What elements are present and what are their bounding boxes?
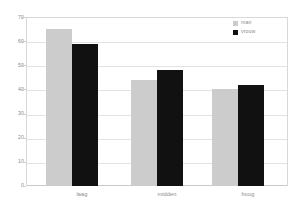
gridline-60 <box>27 42 287 43</box>
legend-swatch-man-icon <box>233 21 238 26</box>
y-tick-label: 70 <box>4 15 24 20</box>
y-tick-label: 60 <box>4 39 24 44</box>
legend-label-man: man <box>241 20 251 25</box>
y-tick-mark <box>22 186 26 187</box>
y-axis: 70 60 50 40 30 20 10 0 <box>0 0 24 215</box>
y-tick-label: 0 <box>4 183 24 188</box>
x-label-laag: laag <box>46 192 118 198</box>
y-tick-label: 50 <box>4 63 24 68</box>
y-tick-label: 20 <box>4 135 24 140</box>
x-label-hoog: hoog <box>212 192 284 198</box>
y-tick-label: 10 <box>4 159 24 164</box>
y-tick-label: 40 <box>4 87 24 92</box>
plot-area <box>26 17 288 186</box>
gridline-20 <box>27 139 287 140</box>
y-tick-label: 30 <box>4 111 24 116</box>
legend-item-man: man <box>233 19 255 27</box>
bar-chart: 70 60 50 40 30 20 10 0 <box>0 0 301 215</box>
legend-label-vrouw: vrouw <box>241 29 255 34</box>
legend-item-vrouw: vrouw <box>233 28 255 36</box>
gridline-50 <box>27 66 287 67</box>
gridline-10 <box>27 163 287 164</box>
legend-swatch-vrouw-icon <box>233 30 238 35</box>
gridline-30 <box>27 115 287 116</box>
gridline-0 <box>27 185 287 186</box>
x-label-midden: midden <box>131 192 203 198</box>
chart-legend: man vrouw <box>233 19 255 37</box>
gridline-40 <box>27 90 287 91</box>
